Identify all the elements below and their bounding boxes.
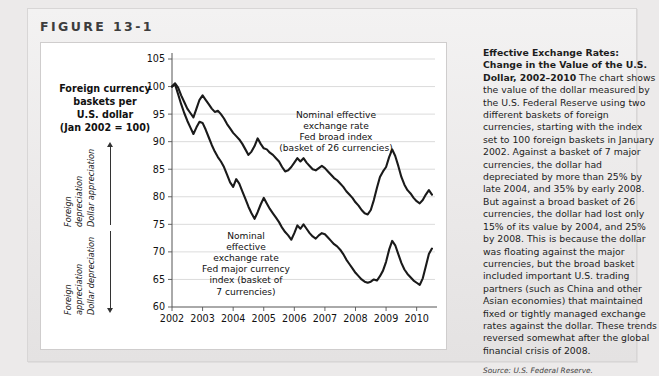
svg-text:2009: 2009 <box>374 313 398 324</box>
svg-text:2004: 2004 <box>221 313 245 324</box>
figure-number: 13-1 <box>113 19 154 34</box>
line-chart-plot: 6065707580859095100105200220032004200520… <box>41 43 446 349</box>
svg-text:Nominal effectiveexchange rate: Nominal effectiveexchange rateFed broad … <box>279 110 392 153</box>
svg-text:2005: 2005 <box>252 313 276 324</box>
svg-text:95: 95 <box>153 109 165 120</box>
caption-text: Effective Exchange Rates: Change in the … <box>483 47 659 357</box>
figure-frame: FIGURE 13-1 Foreign currency baskets per… <box>27 8 637 362</box>
svg-text:105: 105 <box>147 53 165 64</box>
svg-text:100: 100 <box>147 81 165 92</box>
svg-text:2003: 2003 <box>190 313 214 324</box>
svg-text:75: 75 <box>153 219 165 230</box>
figure-header: FIGURE 13-1 <box>40 19 154 34</box>
svg-text:65: 65 <box>153 274 165 285</box>
figure-label: FIGURE <box>40 19 106 34</box>
svg-text:2007: 2007 <box>313 313 337 324</box>
svg-text:90: 90 <box>153 136 165 147</box>
svg-text:2010: 2010 <box>404 313 428 324</box>
svg-text:2008: 2008 <box>343 313 367 324</box>
caption-column: Effective Exchange Rates: Change in the … <box>483 47 659 375</box>
svg-text:80: 80 <box>153 191 165 202</box>
svg-text:2006: 2006 <box>282 313 306 324</box>
svg-text:2002: 2002 <box>160 313 184 324</box>
svg-text:60: 60 <box>153 301 165 312</box>
source-note: Source: U.S. Federal Reserve. <box>483 366 659 375</box>
chart-panel: Foreign currency baskets per U.S. dollar… <box>40 42 447 350</box>
svg-text:85: 85 <box>153 164 165 175</box>
svg-text:Nominaleffectiveexchange rateF: Nominaleffectiveexchange rateFed major c… <box>202 231 290 297</box>
caption-body: The chart shows the value of the dollar … <box>483 72 657 356</box>
svg-text:70: 70 <box>153 246 165 257</box>
